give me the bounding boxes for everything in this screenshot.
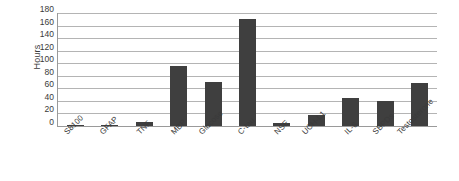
x-tick-slot: NSE: [264, 127, 298, 181]
bar: [170, 66, 187, 126]
y-axis-tick-labels: 180160140120100806040200: [30, 9, 54, 126]
x-tick-slot: C-tau: [229, 127, 263, 181]
y-tick-label: 120: [40, 42, 54, 51]
bar-slot: [230, 13, 264, 126]
bar-slot: [161, 13, 195, 126]
y-tick-label: 180: [40, 5, 54, 14]
x-tick-slot: IL-6: [333, 127, 367, 181]
y-tick-label: 80: [45, 68, 54, 77]
plot-area: [57, 13, 437, 127]
bar: [239, 19, 256, 126]
x-tick-slot: Testosterone: [402, 127, 436, 181]
bar-slot: [127, 13, 161, 126]
x-tick-slot: GFAP: [91, 127, 125, 181]
bar-slot: [368, 13, 402, 126]
x-tick-slot: SBPDs: [367, 127, 401, 181]
bar-slot: [299, 13, 333, 126]
bar-slot: [58, 13, 92, 126]
bar-slot: [334, 13, 368, 126]
bar-chart: Hours 180160140120100806040200 S8100GFAP…: [0, 0, 459, 181]
bar-slot: [265, 13, 299, 126]
bar-slot: [196, 13, 230, 126]
y-tick-label: 140: [40, 30, 54, 39]
x-tick-slot: UCH-L1: [298, 127, 332, 181]
y-tick-label: 100: [40, 55, 54, 64]
x-tick-slot: MBP: [160, 127, 194, 181]
bar-series: [58, 13, 437, 126]
y-tick-label: 40: [45, 93, 54, 102]
y-tick-label: 20: [45, 105, 54, 114]
x-tick-slot: Glucose: [195, 127, 229, 181]
y-tick-label: 60: [45, 80, 54, 89]
bar-slot: [92, 13, 126, 126]
y-tick-label: 0: [49, 118, 54, 127]
x-axis-tick-labels: S8100GFAPTNFMBPGlucoseC-tauNSEUCH-L1IL-6…: [57, 127, 436, 181]
x-tick-slot: TNF: [126, 127, 160, 181]
y-tick-label: 160: [40, 17, 54, 26]
x-tick-slot: S8100: [57, 127, 91, 181]
